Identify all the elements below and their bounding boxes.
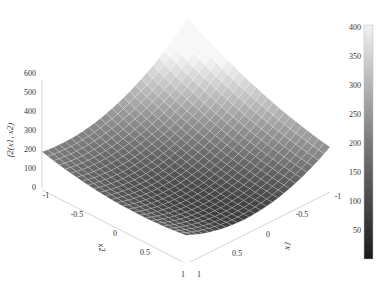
- colorbar-tick: 50: [353, 226, 361, 235]
- colorbar-tick: 200: [349, 139, 361, 148]
- z-axis-label: f2(x1, x2): [5, 123, 15, 157]
- x2-tick: 0.5: [140, 248, 150, 257]
- x2-axis-label: x2: [96, 241, 108, 253]
- colorbar-tick: 350: [349, 52, 361, 61]
- colorbar-tick: 250: [349, 110, 361, 119]
- colorbar-tick: 100: [349, 197, 361, 206]
- x1-tick: 0.5: [232, 249, 242, 258]
- x1-tick: -1: [335, 192, 342, 201]
- z-tick: 400: [24, 107, 36, 116]
- colorbar-ticks: 50 100 150 200 250 300 350 400: [349, 23, 361, 235]
- x2-tick: -1: [43, 191, 50, 200]
- colorbar-tick: 150: [349, 168, 361, 177]
- surface-mesh: [42, 18, 330, 235]
- z-tick: 600: [24, 69, 36, 78]
- colorbar-tick: 300: [349, 81, 361, 90]
- x2-tick: 1: [181, 270, 185, 279]
- z-tick: 200: [24, 145, 36, 154]
- x2-tick: 0: [113, 229, 117, 238]
- z-axis-ticks: 0 100 200 300 400 500 600: [24, 69, 36, 192]
- x1-tick: -0.5: [296, 210, 309, 219]
- z-tick: 300: [24, 126, 36, 135]
- x1-axis-label: x1: [281, 240, 292, 251]
- x1-tick: 0: [266, 230, 270, 239]
- z-tick: 100: [24, 164, 36, 173]
- surface-plot: 0 100 200 300 400 500 600 f2(x1, x2) -1 …: [0, 0, 384, 291]
- x2-tick: -0.5: [71, 210, 84, 219]
- colorbar-tick: 400: [349, 23, 361, 32]
- z-tick: 500: [24, 88, 36, 97]
- colorbar: [364, 25, 373, 259]
- z-tick: 0: [32, 183, 36, 192]
- x1-tick: 1: [197, 270, 201, 279]
